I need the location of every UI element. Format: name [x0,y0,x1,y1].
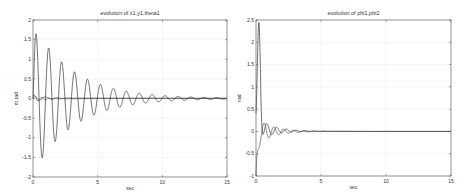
y-axis-label: rad [236,94,242,101]
y-tick-label: 1.5 [24,36,31,42]
x-tick-label: 15 [448,178,454,184]
series-phi2 [256,123,451,176]
plot-phi1-phi2: 051015-1-0.500.511.522.5evolution of phi… [236,10,454,190]
series-x1 [33,34,227,158]
x-tick-label: 10 [160,179,166,185]
y-tick-label: 0.5 [24,76,31,82]
chart-title: evolution of phi1,phi2 [328,10,380,16]
y-tick-label: 0.5 [247,106,254,112]
y-tick-label: 0 [28,95,31,101]
x-tick-label: 0 [255,178,258,184]
y-tick-label: -1.5 [22,154,31,160]
y-tick-label: 0 [251,128,254,134]
x-tick-label: 5 [96,179,99,185]
figure-canvas: 051015-2-1.5-1-0.500.511.52evolution of … [0,0,467,195]
x-tick-label: 10 [383,178,389,184]
grid [256,20,451,176]
series-phi1 [256,22,451,134]
plot-x1-y1-theta1: 051015-2-1.5-1-0.500.511.52evolution of … [13,10,230,191]
x-tick-label: 15 [224,179,230,185]
y-axis-label: m,rad [13,92,19,105]
x-tick-label: 0 [32,179,35,185]
y-tick-label: -1 [250,173,255,179]
chart-title: evolution of x1,y1,theta1 [100,10,160,16]
y-tick-label: 2.5 [247,17,254,23]
y-tick-label: 1.5 [247,61,254,67]
y-tick-label: 1 [28,56,31,62]
y-tick-label: -0.5 [22,115,31,121]
x-axis-label: sec [126,185,134,191]
axes-box [256,20,451,176]
x-axis-label: sec [350,184,358,190]
y-tick-label: -2 [27,174,32,180]
y-tick-label: 2 [251,39,254,45]
x-tick-label: 5 [320,178,323,184]
y-tick-label: -0.5 [245,150,254,156]
y-tick-label: 1 [251,84,254,90]
y-tick-label: 2 [28,17,31,23]
y-tick-label: -1 [27,134,32,140]
